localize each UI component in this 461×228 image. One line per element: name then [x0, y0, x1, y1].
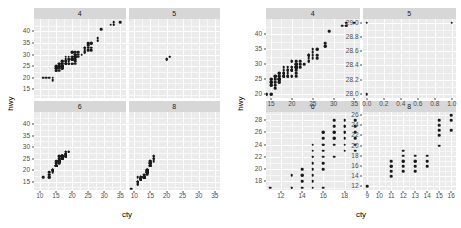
- gridline-major-horizontal: [129, 55, 221, 56]
- data-point: [438, 129, 441, 132]
- data-point: [274, 87, 277, 90]
- gridline-minor-horizontal: [129, 37, 221, 38]
- data-point: [58, 160, 61, 163]
- y-tick-mark: [32, 147, 34, 148]
- gridline-minor-horizontal: [363, 161, 457, 162]
- x-tick-mark: [72, 191, 73, 193]
- x-tick-label: 16: [448, 193, 455, 200]
- gridline-major-horizontal: [129, 78, 221, 79]
- data-point: [74, 58, 77, 61]
- facet-strip-label: 4: [34, 8, 126, 19]
- gridline-major-vertical: [354, 19, 355, 98]
- gridline-major-horizontal: [363, 156, 457, 157]
- x-tick-mark: [120, 191, 121, 193]
- data-point: [71, 62, 74, 65]
- y-tick-label: 18: [338, 153, 359, 160]
- gridline-major-vertical: [384, 19, 385, 98]
- data-point: [270, 93, 273, 96]
- y-tick-label: 28.0: [338, 91, 359, 98]
- data-point: [402, 149, 405, 152]
- y-tick-mark: [360, 36, 362, 37]
- x-tick-mark: [291, 98, 292, 100]
- y-tick-mark: [264, 120, 266, 121]
- x-tick-label: 0.2: [379, 101, 388, 108]
- data-point: [61, 60, 64, 63]
- gridline-major-vertical: [451, 112, 452, 191]
- data-point: [333, 137, 336, 140]
- y-tick-mark: [32, 135, 34, 136]
- y-tick-mark: [360, 166, 362, 167]
- data-point: [96, 39, 99, 42]
- plot-panel: [363, 19, 457, 98]
- data-point: [67, 150, 70, 153]
- data-point: [343, 119, 346, 122]
- x-tick-mark: [88, 191, 89, 193]
- y-tick-label: 18: [241, 178, 262, 185]
- y-tick-label: 30: [9, 51, 30, 58]
- data-point: [136, 176, 139, 179]
- data-point: [322, 149, 325, 152]
- y-tick-label: 20: [241, 166, 262, 173]
- data-point: [303, 63, 306, 66]
- y-tick-mark: [32, 43, 34, 44]
- x-tick-label: 1.0: [447, 101, 456, 108]
- gridline-minor-horizontal: [34, 153, 126, 154]
- y-tick-label: 28: [241, 117, 262, 124]
- y-tick-label: 40: [9, 121, 30, 128]
- y-tick-mark: [32, 158, 34, 159]
- x-tick-mark: [134, 191, 135, 193]
- gridline-minor-horizontal: [129, 153, 221, 154]
- x-axis-title: cty: [266, 210, 456, 219]
- data-point: [426, 160, 429, 163]
- facet-panel-6: 6: [34, 101, 126, 191]
- x-tick-label: 35: [211, 193, 218, 200]
- gridline-major-vertical: [452, 19, 453, 98]
- gridline-major-horizontal: [129, 136, 221, 137]
- data-point: [149, 164, 152, 167]
- data-point: [55, 160, 58, 163]
- y-tick-mark: [32, 123, 34, 124]
- gridline-major-vertical: [427, 112, 428, 191]
- y-tick-label: 20: [241, 91, 262, 98]
- x-tick-label: 9: [365, 193, 369, 200]
- gridline-minor-horizontal: [129, 141, 221, 142]
- gridline-major-vertical: [435, 19, 436, 98]
- data-point: [291, 69, 294, 72]
- data-point: [51, 169, 54, 172]
- y-tick-label: 28.6: [338, 48, 359, 55]
- y-tick-label: 22: [241, 154, 262, 161]
- data-point: [58, 69, 61, 72]
- data-point: [90, 49, 93, 52]
- y-tick-label: 40: [9, 28, 30, 35]
- gridline-major-horizontal: [363, 166, 457, 167]
- gridline-minor-horizontal: [129, 49, 221, 50]
- x-tick-label: 15: [147, 193, 154, 200]
- data-point: [168, 56, 171, 59]
- x-tick-mark: [344, 191, 345, 193]
- data-point: [109, 23, 112, 26]
- data-point: [48, 173, 51, 176]
- data-point: [58, 162, 61, 165]
- x-tick-label: 25: [309, 101, 316, 108]
- data-point: [333, 156, 336, 159]
- gridline-major-horizontal: [363, 176, 457, 177]
- data-point: [402, 165, 405, 168]
- data-point: [61, 67, 64, 70]
- data-point: [295, 60, 298, 63]
- y-tick-label: 20: [9, 74, 30, 81]
- x-tick-label: 25: [179, 193, 186, 200]
- data-point: [390, 170, 393, 173]
- gridline-minor-horizontal: [363, 30, 457, 31]
- data-point: [438, 119, 441, 122]
- plot-panel: [34, 19, 126, 98]
- x-tick-mark: [150, 191, 151, 193]
- data-point: [311, 156, 314, 159]
- data-point: [307, 60, 310, 63]
- plot-panel: [363, 112, 457, 191]
- x-tick-label: 0.0: [362, 101, 371, 108]
- facet-strip-label: 5: [363, 8, 457, 19]
- data-point: [450, 129, 453, 132]
- data-point: [45, 76, 48, 79]
- data-point: [402, 170, 405, 173]
- y-axis-title: hwy: [6, 92, 15, 116]
